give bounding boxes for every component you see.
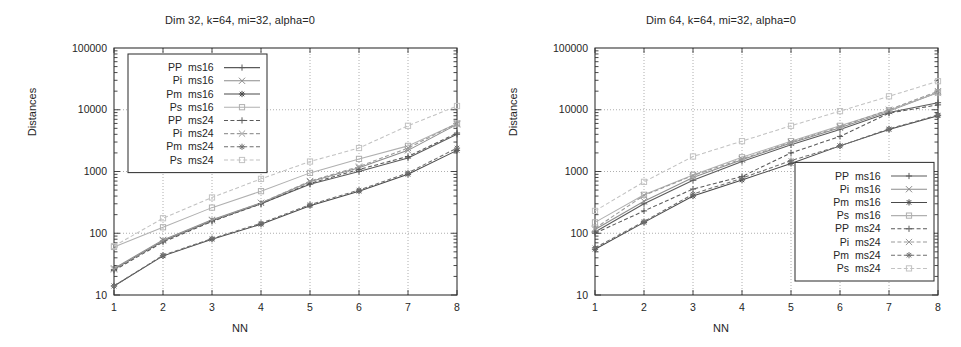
marker-star (906, 252, 912, 258)
legend-label-algo: PP (835, 170, 849, 182)
marker-star (405, 170, 411, 176)
legend-label-variant: ms16 (188, 61, 214, 73)
x-tick-label: 6 (837, 301, 843, 313)
y-tick-label: 10000 (78, 103, 107, 115)
marker-star (258, 220, 264, 226)
legend-label-variant: ms16 (855, 183, 881, 195)
legend-label-variant: ms16 (188, 88, 214, 100)
marker-star (739, 175, 745, 181)
legend-label-variant: ms16 (188, 74, 214, 86)
legend-label-variant: ms24 (188, 140, 214, 152)
chart-panel-dim64: Dim 64, k=64, mi=32, alpha=0 Distances N… (481, 0, 961, 347)
x-tick-label: 7 (886, 301, 892, 313)
legend-label-algo: PP (835, 222, 849, 234)
marker-star (641, 218, 647, 224)
legend-label-variant: ms24 (855, 249, 881, 261)
x-tick-label: 3 (209, 301, 215, 313)
y-tick-label: 1000 (84, 165, 108, 177)
legend-label-algo: Ps (837, 209, 849, 221)
legend-label-algo: PP (168, 114, 182, 126)
marker-star (690, 191, 696, 197)
legend-label-algo: Ps (837, 262, 849, 274)
marker-star (837, 143, 843, 149)
y-tick-label: 100000 (72, 42, 107, 54)
marker-star (592, 245, 598, 251)
legend-label-variant: ms16 (188, 101, 214, 113)
x-tick-label: 5 (307, 301, 313, 313)
legend-label-algo: Pi (173, 74, 182, 86)
y-tick-label: 10 (95, 289, 107, 301)
y-tick-label: 10000 (559, 103, 588, 115)
marker-star (454, 145, 460, 151)
marker-star (239, 91, 245, 97)
legend: PPms16Pims16Pmms16Psms16PPms24Pims24Pmms… (128, 54, 267, 173)
legend-label-algo: Pm (833, 249, 849, 261)
plot-area: 1010010001000010000012345678PPms16Pims16… (0, 0, 480, 347)
x-tick-label: 2 (641, 301, 647, 313)
y-tick-label: 100 (89, 227, 107, 239)
y-tick-label: 100 (570, 227, 588, 239)
x-tick-label: 4 (258, 301, 264, 313)
legend-label-algo: Pm (166, 140, 182, 152)
legend-label-algo: Pm (833, 196, 849, 208)
x-tick-label: 1 (111, 301, 117, 313)
marker-star (886, 126, 892, 132)
legend-label-algo: Pi (173, 127, 182, 139)
marker-star (356, 187, 362, 193)
legend-label-algo: Ps (170, 101, 182, 113)
x-tick-label: 3 (690, 301, 696, 313)
legend-label-variant: ms24 (188, 154, 214, 166)
y-tick-label: 1000 (565, 165, 589, 177)
legend-label-algo: Pm (166, 88, 182, 100)
legend-label-algo: Pi (840, 183, 849, 195)
plot-area: 1010010001000010000012345678PPms16Pims16… (481, 0, 961, 347)
marker-plus (788, 150, 794, 156)
marker-star (160, 252, 166, 258)
x-tick-label: 8 (454, 301, 460, 313)
marker-star (788, 158, 794, 164)
x-tick-label: 4 (739, 301, 745, 313)
x-tick-label: 2 (160, 301, 166, 313)
legend-label-variant: ms16 (855, 209, 881, 221)
legend-label-variant: ms16 (855, 170, 881, 182)
legend-label-variant: ms24 (188, 114, 214, 126)
x-tick-label: 1 (592, 301, 598, 313)
y-tick-label: 10 (576, 289, 588, 301)
x-tick-label: 8 (935, 301, 941, 313)
legend: PPms16Pims16Pmms16Psms16PPms24Pims24Pmms… (795, 162, 934, 281)
legend-label-algo: Pi (840, 236, 849, 248)
legend-label-algo: PP (168, 61, 182, 73)
marker-star (307, 202, 313, 208)
legend-label-variant: ms24 (188, 127, 214, 139)
marker-star (209, 235, 215, 241)
marker-plus (641, 208, 647, 214)
legend-label-variant: ms24 (855, 236, 881, 248)
x-tick-label: 7 (405, 301, 411, 313)
y-tick-label: 100000 (553, 42, 588, 54)
legend-label-variant: ms24 (855, 262, 881, 274)
legend-label-variant: ms16 (855, 196, 881, 208)
marker-plus (837, 133, 843, 139)
legend-label-algo: Ps (170, 154, 182, 166)
marker-star (239, 144, 245, 150)
x-tick-label: 5 (788, 301, 794, 313)
figure-root: Dim 32, k=64, mi=32, alpha=0 Distances N… (0, 0, 961, 347)
chart-panel-dim32: Dim 32, k=64, mi=32, alpha=0 Distances N… (0, 0, 480, 347)
marker-star (111, 283, 117, 289)
x-tick-label: 6 (356, 301, 362, 313)
marker-star (935, 112, 941, 118)
marker-star (906, 199, 912, 205)
legend-label-variant: ms24 (855, 222, 881, 234)
